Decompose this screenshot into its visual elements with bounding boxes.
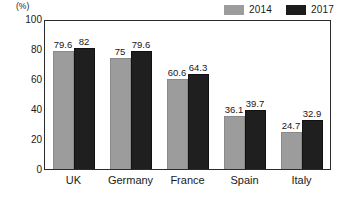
bar-group-spain: 36.1 39.7 — [224, 21, 266, 169]
x-axis-label-uk: UK — [46, 174, 102, 186]
bar-germany-2017[interactable] — [131, 51, 152, 169]
bar-wrap-germany-2014: 75 — [110, 21, 131, 169]
y-axis-unit-label: (%) — [16, 2, 29, 11]
legend-item-2014[interactable]: 2014 — [224, 5, 272, 15]
bar-group-france: 60.6 64.3 — [167, 21, 209, 169]
bar-france-2017[interactable] — [188, 74, 209, 169]
bar-value-uk-2014: 79.6 — [54, 40, 73, 50]
legend-item-2017[interactable]: 2017 — [286, 5, 334, 15]
bar-italy-2014[interactable] — [281, 132, 302, 169]
bar-uk-2017[interactable] — [74, 48, 95, 169]
legend-label-2014: 2014 — [249, 5, 272, 15]
y-axis: 100 80 60 40 20 0 — [0, 20, 42, 170]
y-axis-tick-60: 60 — [2, 75, 42, 85]
bar-value-spain-2017: 39.7 — [246, 99, 265, 109]
bar-wrap-uk-2017: 82 — [74, 21, 95, 169]
y-axis-tick-0: 0 — [2, 165, 42, 175]
bar-wrap-italy-2014: 24.7 — [281, 21, 302, 169]
y-axis-tick-100: 100 — [2, 15, 42, 25]
bar-group-germany: 75 79.6 — [110, 21, 152, 169]
bar-wrap-uk-2014: 79.6 — [53, 21, 74, 169]
bar-value-france-2017: 64.3 — [189, 63, 208, 73]
bar-germany-2014[interactable] — [110, 58, 131, 169]
bar-group-italy: 24.7 32.9 — [281, 21, 323, 169]
bar-wrap-spain-2014: 36.1 — [224, 21, 245, 169]
x-axis: UK Germany France Spain Italy — [45, 174, 330, 192]
bar-wrap-france-2014: 60.6 — [167, 21, 188, 169]
bar-wrap-italy-2017: 32.9 — [302, 21, 323, 169]
legend-swatch-2017-icon — [286, 5, 306, 15]
bars-area: 79.6 82 75 79.6 60.6 64 — [45, 21, 330, 169]
bar-value-italy-2014: 24.7 — [282, 121, 301, 131]
legend-label-2017: 2017 — [311, 5, 334, 15]
bar-spain-2014[interactable] — [224, 116, 245, 169]
bar-uk-2014[interactable] — [53, 51, 74, 169]
legend-swatch-2014-icon — [224, 5, 244, 15]
x-axis-label-france: France — [160, 174, 216, 186]
bar-value-italy-2017: 32.9 — [303, 109, 322, 119]
bar-value-spain-2014: 36.1 — [225, 105, 244, 115]
x-axis-label-germany: Germany — [103, 174, 159, 186]
bar-value-germany-2014: 75 — [115, 47, 126, 57]
bar-wrap-germany-2017: 79.6 — [131, 21, 152, 169]
bar-france-2014[interactable] — [167, 79, 188, 169]
chart-legend: 2014 2017 — [224, 3, 334, 17]
bar-spain-2017[interactable] — [245, 110, 266, 169]
bar-italy-2017[interactable] — [302, 120, 323, 169]
bar-value-uk-2017: 82 — [79, 37, 90, 47]
x-axis-label-italy: Italy — [274, 174, 330, 186]
x-axis-label-spain: Spain — [217, 174, 273, 186]
y-axis-tick-80: 80 — [2, 45, 42, 55]
y-axis-tick-20: 20 — [2, 135, 42, 145]
y-axis-tick-40: 40 — [2, 105, 42, 115]
bar-value-germany-2017: 79.6 — [132, 40, 151, 50]
bar-chart: (%) 2014 2017 100 80 60 40 20 0 79.6 82 — [0, 0, 342, 197]
bar-group-uk: 79.6 82 — [53, 21, 95, 169]
bar-wrap-spain-2017: 39.7 — [245, 21, 266, 169]
bar-value-france-2014: 60.6 — [168, 68, 187, 78]
bar-wrap-france-2017: 64.3 — [188, 21, 209, 169]
